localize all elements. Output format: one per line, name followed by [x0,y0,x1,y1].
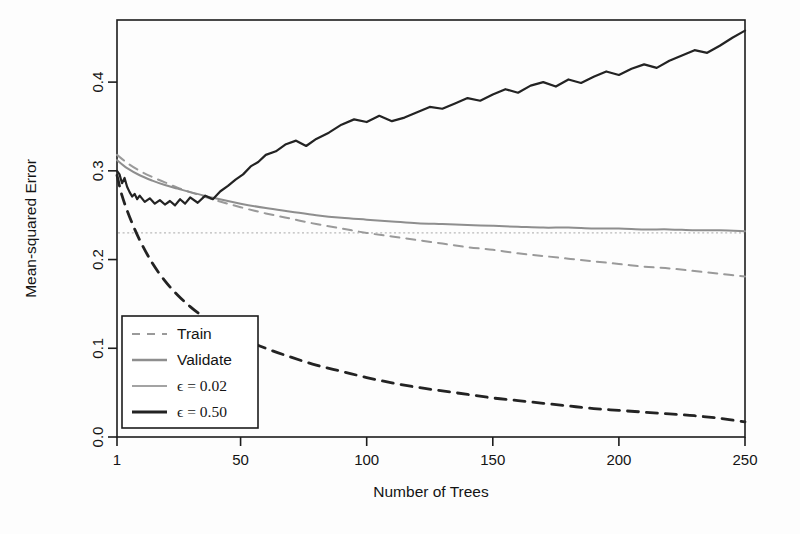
series-line [117,160,745,231]
legend-label-4: ϵ = 0.50 [177,403,227,420]
x-tick-label: 250 [732,451,757,468]
x-axis-title: Number of Trees [373,483,489,500]
x-tick-label: 200 [606,451,631,468]
legend-box: TrainValidateϵ = 0.02ϵ = 0.50 [122,316,258,428]
x-tick-label: 150 [480,451,505,468]
x-tick-label: 100 [354,451,379,468]
legend-label-2: Validate [177,351,232,368]
y-axis-title: Mean-squared Error [22,159,39,298]
series-line [117,155,745,277]
y-axis-ticks-group: 0.00.10.20.30.4 [89,72,117,448]
y-tick-label: 0.2 [89,249,106,270]
series-line [117,31,745,206]
chart-figure: Mean-squared Error Number of Trees 0.00.… [0,0,800,534]
x-axis-ticks-group: 150100150200250 [113,437,758,468]
x-tick-label: 50 [232,451,249,468]
y-tick-label: 0.1 [89,338,106,359]
x-axis-title-group: Number of Trees [373,483,489,500]
x-tick-label: 1 [113,451,121,468]
y-tick-label: 0.4 [89,72,106,93]
y-tick-label: 0.3 [89,160,106,181]
legend-label-3: ϵ = 0.02 [177,377,227,394]
chart-svg: Mean-squared Error Number of Trees 0.00.… [0,0,800,534]
y-axis-title-group: Mean-squared Error [22,159,39,298]
y-tick-label: 0.0 [89,427,106,448]
legend-label-1: Train [177,325,212,342]
